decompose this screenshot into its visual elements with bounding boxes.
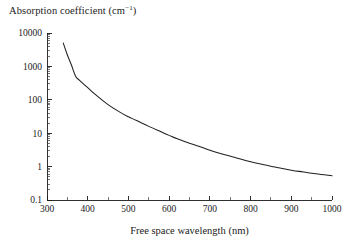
y-tick-label: 10000 (18, 28, 42, 38)
y-tick-label: 10 (33, 129, 43, 139)
y-tick-label: 1000 (23, 62, 42, 72)
y-axis: 0.1110100100010000 (18, 28, 51, 205)
data-curve-absorption (63, 43, 332, 176)
x-tick-label: 500 (121, 204, 136, 214)
chart-page: Absorption coefficient (cm−1) 0.11101001… (0, 0, 352, 242)
x-axis-tick-labels: 3004005006007008009001000 (40, 204, 342, 214)
y-tick-label: 1 (37, 162, 42, 172)
x-tick-label: 900 (284, 204, 299, 214)
x-tick-label: 700 (203, 204, 218, 214)
x-tick-label: 600 (162, 204, 177, 214)
x-tick-label: 400 (81, 204, 96, 214)
absorption-coefficient-plot: 0.1110100100010000 300400500600700800900… (0, 0, 352, 242)
data-series-group (63, 43, 332, 176)
y-tick-label: 100 (28, 95, 43, 105)
x-axis-label: Free space wavelength (nm) (130, 225, 249, 237)
x-tick-label: 300 (40, 204, 55, 214)
x-axis: 3004005006007008009001000 (40, 196, 342, 215)
x-axis-ticks (47, 196, 332, 201)
y-axis-ticks (47, 33, 52, 200)
x-tick-label: 1000 (323, 204, 342, 214)
x-tick-label: 800 (243, 204, 258, 214)
y-axis-tick-labels: 0.1110100100010000 (18, 28, 42, 205)
